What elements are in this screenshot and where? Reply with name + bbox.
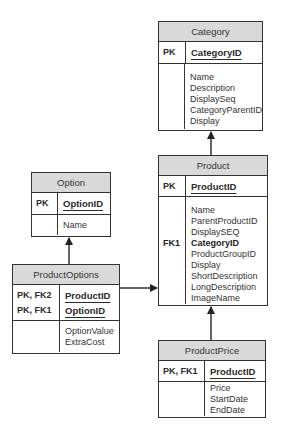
pk-row: PK, FK2 PK, FK1 ProductID OptionID (13, 285, 119, 321)
attribute: EndDate (210, 405, 248, 416)
entity-title: ProductOptions (13, 265, 119, 285)
attribute: Name (63, 220, 87, 231)
entity-title: Option (32, 173, 110, 193)
attribute: Description (190, 83, 262, 94)
fk-label: FK1 (163, 238, 185, 249)
attribute: ImageName (191, 293, 258, 304)
attribute: ExtraCost (65, 337, 114, 348)
attribute: Name (191, 205, 258, 216)
pk-field: OptionID (65, 303, 110, 318)
key-label: PK (163, 45, 185, 60)
entity-title: Product (159, 156, 267, 176)
entity-option: Option PK OptionID Name (31, 172, 111, 237)
attribute-section: OptionValue ExtraCost (13, 321, 119, 352)
key-label: PK, FK2 (17, 288, 59, 303)
entity-productoptions: ProductOptions PK, FK2 PK, FK1 ProductID… (12, 264, 120, 354)
pk-row: PK ProductID (159, 176, 267, 197)
attribute: CategoryParentID (190, 105, 262, 116)
attribute: ProductGroupID (191, 249, 258, 260)
attribute: LongDescription (191, 282, 258, 293)
attribute-section: Price StartDate EndDate (159, 382, 265, 416)
pk-field: ProductID (210, 364, 255, 379)
key-label: PK (163, 179, 185, 194)
attribute: DisplaySEQ (191, 227, 258, 238)
pk-row: PK OptionID (32, 193, 110, 215)
attribute: Display (190, 116, 262, 127)
key-label: PK, FK1 (17, 303, 59, 318)
pk-row: PK, FK1 ProductID (159, 361, 265, 382)
entity-category: Category PK CategoryID Name Description … (158, 21, 263, 131)
attribute: ParentProductID (191, 216, 258, 227)
key-label: PK, FK1 (163, 364, 204, 379)
entity-title: Category (159, 22, 262, 42)
entity-title: ProductPrice (159, 341, 265, 361)
pk-row: PK CategoryID (159, 42, 262, 64)
attribute: Price (210, 383, 248, 394)
fk-attribute: CategoryID (191, 238, 258, 249)
entity-product: Product PK ProductID FK1 Name ParentProd… (158, 155, 268, 306)
key-label: PK (36, 196, 57, 211)
pk-field: ProductID (65, 288, 110, 303)
pk-field: OptionID (63, 196, 103, 211)
attribute: StartDate (210, 394, 248, 405)
pk-field: CategoryID (191, 45, 242, 60)
pk-field: ProductID (191, 179, 236, 194)
entity-productprice: ProductPrice PK, FK1 ProductID Price Sta… (158, 340, 266, 418)
attribute: Name (190, 72, 262, 83)
attribute-section: Name Description DisplaySeq CategoryPare… (159, 64, 262, 129)
attribute: ShortDescription (191, 271, 258, 282)
attribute: Display (191, 260, 258, 271)
attribute-section: Name (32, 215, 110, 235)
attribute-section: FK1 Name ParentProductID DisplaySEQ Cate… (159, 197, 267, 304)
attribute: OptionValue (65, 326, 114, 337)
attribute: DisplaySeq (190, 94, 262, 105)
